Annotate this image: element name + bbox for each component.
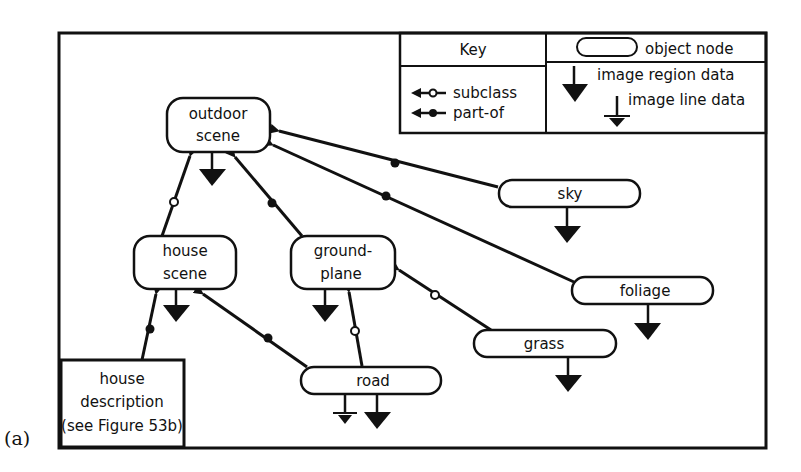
image-region-data-icon — [554, 226, 581, 243]
part-of-marker — [264, 334, 273, 343]
node-sky: sky — [499, 180, 640, 243]
svg-text:scene: scene — [196, 127, 240, 145]
part-of-marker — [268, 199, 277, 208]
part-of-label: part-of — [453, 104, 505, 122]
svg-text:house: house — [162, 242, 207, 260]
svg-text:road: road — [356, 372, 390, 390]
part-of-link-icon — [411, 108, 446, 118]
image-line-data-icon — [338, 415, 352, 424]
key-title: Key — [459, 41, 486, 59]
subclass-marker — [431, 291, 439, 299]
subclass-label: subclass — [453, 84, 517, 102]
image-region-data-icon — [634, 323, 661, 340]
object-node-sample — [577, 38, 637, 56]
image-region-label: image region data — [597, 66, 734, 84]
svg-text:plane: plane — [320, 265, 362, 283]
subclass-marker — [170, 198, 178, 206]
svg-text:grass: grass — [524, 335, 565, 353]
node-grass: grass — [474, 330, 616, 392]
image-line-label: image line data — [628, 91, 745, 109]
image-region-data-icon — [312, 305, 339, 322]
image-region-data-icon — [364, 412, 391, 429]
svg-text:outdoor: outdoor — [189, 105, 248, 123]
legend-key: Key object node subclass part-of image r… — [400, 33, 766, 133]
svg-text:scene: scene — [163, 265, 207, 283]
node-ground-plane: ground- plane — [291, 236, 395, 322]
edge-sky-to-outdoor-scene — [279, 131, 498, 187]
node-house-scene: house scene — [134, 236, 236, 322]
image-region-data-icon — [199, 169, 226, 186]
panel-label: (a) — [4, 427, 30, 449]
part-of-marker — [146, 325, 155, 334]
semantic-network-diagram: Key object node subclass part-of image r… — [0, 0, 801, 472]
node-outdoor-scene: outdoor scene — [167, 98, 270, 186]
subclass-marker — [351, 327, 359, 335]
svg-text:sky: sky — [558, 185, 583, 203]
image-region-data-icon — [163, 305, 190, 322]
svg-text:(see Figure 53b): (see Figure 53b) — [61, 417, 183, 435]
svg-text:ground-: ground- — [314, 242, 372, 260]
image-region-data-icon — [555, 375, 582, 392]
edge-house-scene-to-outdoor-scene — [162, 156, 190, 236]
svg-text:foliage: foliage — [620, 282, 671, 300]
part-of-marker — [382, 192, 391, 201]
svg-text:house: house — [99, 370, 144, 388]
image-region-data-icon — [562, 66, 588, 102]
node-road: road — [301, 367, 441, 429]
edge-road-to-house-scene — [203, 294, 307, 367]
edge-ground-plane-to-outdoor-scene — [235, 157, 302, 236]
node-house-description: house description (see Figure 53b) — [61, 360, 184, 447]
svg-text:description: description — [80, 393, 163, 411]
part-of-marker — [391, 159, 400, 168]
subclass-link-icon — [411, 88, 446, 98]
edge-grass-to-ground-plane — [399, 270, 491, 330]
object-node-label: object node — [645, 40, 733, 58]
image-line-data-icon — [604, 96, 630, 127]
